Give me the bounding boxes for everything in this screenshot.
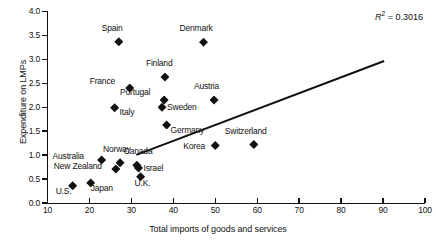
data-point-label: U.S. — [56, 187, 72, 196]
x-axis-tick-label: 100 — [410, 206, 436, 215]
data-point-label: U.K. — [135, 179, 151, 188]
data-point[interactable] — [211, 141, 220, 150]
y-axis-tick — [42, 130, 47, 131]
x-axis-tick-label: 20 — [74, 206, 104, 215]
y-axis-tick — [42, 83, 47, 84]
data-point[interactable] — [110, 103, 119, 112]
x-axis-tick-label: 70 — [284, 206, 314, 215]
data-point-label: Canada — [124, 147, 153, 156]
x-axis-tick — [257, 198, 258, 203]
x-axis-line — [47, 203, 425, 204]
r-squared-annotation: R2 = 0.3016 — [375, 10, 423, 22]
data-point[interactable] — [158, 103, 167, 112]
y-axis-tick-label: 0.0 — [14, 199, 40, 208]
x-axis-tick-label: 90 — [368, 206, 398, 215]
x-axis-tick — [173, 198, 174, 203]
data-point-label: Austria — [194, 82, 219, 91]
x-axis-tick — [382, 198, 383, 203]
data-point[interactable] — [160, 73, 169, 82]
y-axis-tick — [42, 11, 47, 12]
r-squared-value: = 0.3016 — [385, 12, 423, 22]
x-axis-tick-label: 50 — [200, 206, 230, 215]
x-axis-tick-label: 40 — [158, 206, 188, 215]
data-point-label: Italy — [120, 108, 135, 117]
y-axis-tick — [42, 154, 47, 155]
data-point[interactable] — [114, 37, 123, 46]
y-axis-tick — [42, 35, 47, 36]
data-point-label: Germany — [171, 126, 205, 135]
x-axis-tick — [424, 198, 425, 203]
data-point-label: New Zealand — [54, 162, 102, 171]
x-axis-tick — [47, 198, 48, 203]
x-axis-tick — [340, 198, 341, 203]
y-axis-tick — [42, 202, 47, 203]
data-point-label: Israel — [144, 164, 164, 173]
data-point[interactable] — [210, 96, 219, 105]
data-point[interactable] — [249, 140, 258, 149]
y-axis-tick-label: 4.0 — [14, 7, 40, 16]
y-axis-line — [47, 11, 48, 204]
x-axis-tick — [89, 198, 90, 203]
data-point-label: Denmark — [180, 24, 213, 33]
x-axis-tick-label: 80 — [326, 206, 356, 215]
x-axis-tick — [215, 198, 216, 203]
x-axis-tick — [298, 198, 299, 203]
data-point-label: Finland — [146, 59, 172, 68]
data-point-label: Sweden — [167, 103, 197, 112]
data-point-label: Portugal — [120, 88, 150, 97]
data-point-label: Japan — [91, 184, 113, 193]
x-axis-tick — [131, 198, 132, 203]
data-point-label: Switzerland — [225, 127, 267, 136]
y-axis-tick — [42, 107, 47, 108]
x-axis-title: Total imports of goods and services — [0, 224, 436, 234]
data-point-label: France — [90, 77, 115, 86]
y-axis-tick — [42, 59, 47, 60]
data-point[interactable] — [199, 38, 208, 47]
y-axis-tick — [42, 178, 47, 179]
data-point-label: Australia — [53, 152, 84, 161]
scatter-chart: SpainDenmarkFinlandFrancePortugalAustria… — [0, 0, 436, 248]
data-point-label: Spain — [102, 24, 123, 33]
x-axis-tick-label: 60 — [242, 206, 272, 215]
data-point-label: Korea — [183, 142, 205, 151]
x-axis-tick-label: 30 — [116, 206, 146, 215]
y-axis-title: Expenditure on LMPs — [18, 17, 28, 187]
